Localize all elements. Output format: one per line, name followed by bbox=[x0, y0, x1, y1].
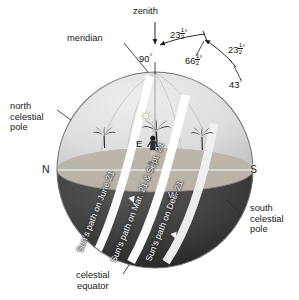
angle-zenith-altitude: 90° bbox=[139, 52, 152, 64]
angle-equator-altitude: 6612° bbox=[185, 53, 203, 66]
cardinal-east: E bbox=[136, 138, 142, 149]
cardinal-south: S bbox=[250, 163, 257, 175]
zenith-label: zenith bbox=[133, 6, 158, 17]
celestial-equator-label: celestial equator bbox=[76, 270, 110, 291]
tick-june bbox=[203, 31, 207, 41]
south-celestial-pole-label: south celestial pole bbox=[250, 203, 284, 235]
leader-north-pole bbox=[57, 110, 71, 120]
cardinal-north: N bbox=[42, 163, 50, 175]
tick-equinox bbox=[229, 59, 236, 67]
north-celestial-pole-label: north celestial pole bbox=[10, 101, 44, 133]
meridian-label: meridian bbox=[67, 33, 103, 44]
sun-glyph bbox=[141, 111, 152, 122]
angle-zenith-to-june: 2312° bbox=[170, 27, 188, 40]
angle-equator-to-december: 2312° bbox=[228, 42, 246, 55]
celestial-sphere-diagram: zenith meridian north celestial pole sou… bbox=[0, 0, 299, 300]
angle-december-altitude: 43° bbox=[229, 78, 242, 90]
